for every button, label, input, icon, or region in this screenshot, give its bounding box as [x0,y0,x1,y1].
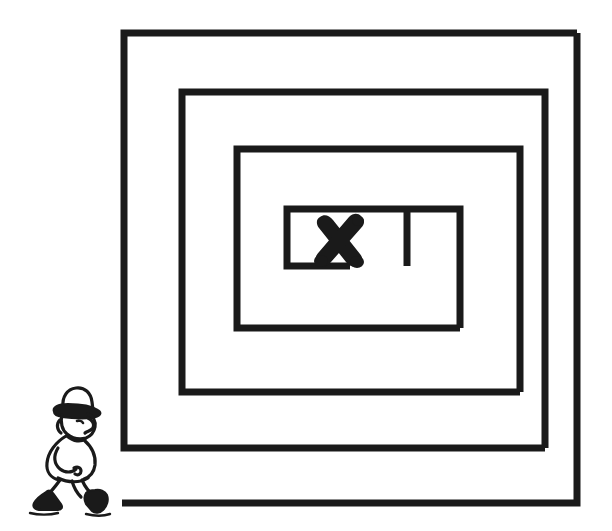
x-mark-ink-blob-1 [350,256,364,268]
x-mark-ink-blob-3 [352,216,364,226]
scene-svg [0,0,612,531]
x-mark-ink-blob-2 [314,255,328,267]
illustration-canvas: X marks the spot maze Line drawing of a … [0,0,612,531]
